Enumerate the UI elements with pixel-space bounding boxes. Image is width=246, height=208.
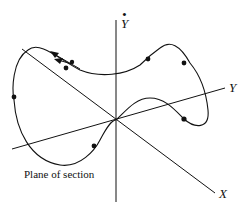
phase-space-diagram: Y • Y X Plane of section <box>0 0 246 208</box>
marker <box>146 57 151 62</box>
y-axis-label: Y <box>229 80 238 95</box>
marker <box>70 60 74 64</box>
section-markers <box>12 57 187 149</box>
marker <box>12 95 17 100</box>
y-axis <box>12 88 225 149</box>
marker <box>181 116 186 121</box>
trajectory-curve <box>13 44 208 165</box>
x-axis-label: X <box>218 186 228 201</box>
marker <box>64 66 69 71</box>
plane-of-section-caption: Plane of section <box>24 168 95 180</box>
marker <box>182 61 187 66</box>
marker <box>92 144 97 149</box>
ydot-dot: • <box>122 7 127 22</box>
